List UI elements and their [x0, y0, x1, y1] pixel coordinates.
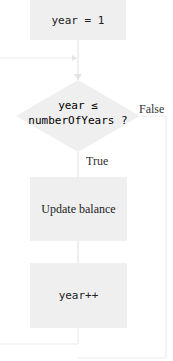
flowchart: year = 1 year ≤ numberOfYears ? False Tr…: [0, 0, 173, 361]
arrowhead-icon: [72, 55, 77, 61]
edge-label-false: False: [139, 102, 164, 117]
node-condition-label: year ≤ numberOfYears ?: [18, 98, 138, 128]
node-init-label: year = 1: [52, 14, 105, 27]
condition-line-2: numberOfYears ?: [18, 113, 138, 128]
node-increment: year++: [30, 263, 127, 328]
arrowhead-icon: [74, 74, 82, 80]
edge-label-true: True: [86, 154, 108, 169]
node-update: Update balance: [30, 177, 127, 241]
node-init: year = 1: [30, 0, 126, 40]
condition-line-1: year ≤: [18, 98, 138, 113]
node-update-label: Update balance: [41, 202, 115, 217]
node-increment-label: year++: [59, 289, 99, 302]
